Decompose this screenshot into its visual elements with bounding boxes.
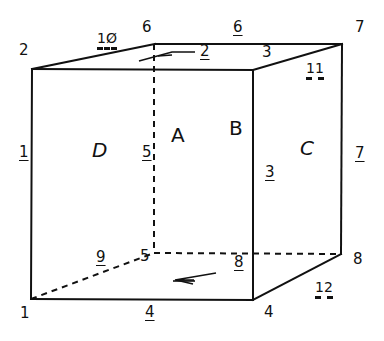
edge-label-9: 9: [96, 250, 106, 265]
edge-label-10: 1Ø: [97, 31, 117, 50]
face-label-a: A: [171, 125, 185, 145]
face-f-glyph: [173, 273, 216, 284]
vertex-label-1: 1: [20, 306, 30, 321]
face-label-c: C: [300, 138, 314, 158]
vertex-label-3: 3: [262, 45, 272, 60]
edge-front-bottom: [31, 299, 253, 300]
vertex-label-6: 6: [142, 20, 152, 35]
vertex-label-5: 5: [140, 249, 150, 264]
edge-label-4: 4: [145, 305, 155, 320]
edge-front-top: [32, 69, 253, 70]
vertex-label-4: 4: [264, 305, 274, 320]
edge-label-7: 7: [355, 146, 365, 161]
edge-label-2: 2: [200, 44, 210, 59]
edge-front-left: [31, 69, 32, 299]
vertex-label-7: 7: [355, 20, 365, 35]
face-label-b: B: [229, 118, 243, 138]
edge-hidden-back-bottom: [154, 253, 341, 254]
edge-label-12: 12: [315, 280, 333, 299]
edge-hidden-bottom-left-diagonal: [31, 253, 154, 299]
edge-label-6: 6: [233, 20, 243, 35]
edge-back-right: [341, 44, 342, 254]
edge-label-5: 5: [142, 145, 152, 160]
edge-label-11: 11: [306, 61, 324, 80]
vertex-label-8: 8: [353, 252, 363, 267]
face-e-glyph: [139, 52, 195, 61]
edge-label-8: 8: [234, 255, 244, 270]
face-label-d: D: [92, 140, 107, 160]
edge-label-3: 3: [265, 165, 275, 180]
vertex-label-2: 2: [19, 43, 29, 58]
edge-top-left-diagonal: [32, 44, 155, 69]
edge-label-1: 1: [19, 145, 29, 160]
